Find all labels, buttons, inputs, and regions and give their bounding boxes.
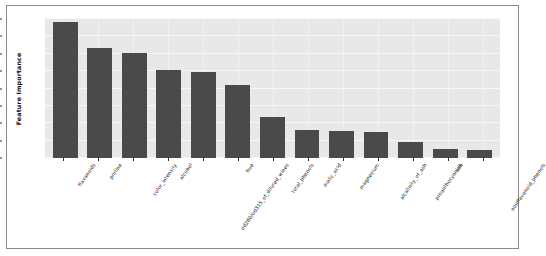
bar — [260, 117, 285, 158]
x-tick-mark — [63, 158, 64, 161]
bar — [53, 22, 78, 158]
x-tick-label: od280/od315_of_diluted_wines — [239, 162, 290, 231]
x-tick-label: malic_acid — [321, 162, 342, 188]
x-tick-label: magnesium — [357, 162, 379, 190]
x-tick-mark — [133, 158, 134, 161]
bar-slot — [393, 19, 428, 158]
x-tick-label: proline — [107, 162, 122, 180]
x-tick-label: total_phenols — [289, 162, 314, 194]
y-tick-mark — [0, 123, 2, 124]
x-tick-label: alcalinity_of_ash — [398, 162, 428, 201]
x-tick-label: flavanoids — [76, 162, 96, 187]
bar — [156, 70, 181, 158]
x-tick-label: alcohol — [177, 162, 193, 181]
x-tick-mark — [483, 158, 484, 161]
bar — [191, 72, 216, 158]
x-tick-label: color_intensity — [151, 162, 178, 197]
y-tick-mark — [0, 36, 2, 37]
bar-slot — [255, 19, 290, 158]
y-tick-mark — [0, 105, 2, 106]
y-tick-mark — [0, 140, 2, 141]
bar — [87, 48, 112, 158]
bar — [398, 142, 423, 158]
y-axis-label: Feature Importance — [15, 53, 22, 126]
bar-slot — [152, 19, 187, 158]
bar — [295, 130, 320, 158]
x-tick-mark — [238, 158, 239, 161]
x-tick-mark — [413, 158, 414, 161]
bar-slot — [186, 19, 221, 158]
y-tick-mark — [0, 71, 2, 72]
x-tick-mark — [308, 158, 309, 161]
x-tick-mark — [273, 158, 274, 161]
x-tick-mark — [378, 158, 379, 161]
bar-slot — [359, 19, 394, 158]
y-tick-mark — [0, 53, 2, 54]
bar — [225, 85, 250, 158]
bar-slot — [462, 19, 497, 158]
x-tick-label: hue — [244, 162, 254, 173]
bar — [364, 132, 389, 158]
bar-slot — [324, 19, 359, 158]
x-tick-mark — [343, 158, 344, 161]
bar-slot — [221, 19, 256, 158]
bar — [433, 149, 458, 158]
x-tick-label: nonflavanoid_phenols — [509, 162, 546, 212]
bar — [329, 131, 354, 158]
y-tick-mark — [0, 158, 2, 159]
plot-area — [45, 19, 500, 158]
bar-slot — [83, 19, 118, 158]
bar-slot — [48, 19, 83, 158]
y-tick-mark — [0, 19, 2, 20]
figure-frame: Feature Importance 0.0000.0250.0500.0750… — [6, 5, 519, 249]
x-tick-mark — [168, 158, 169, 161]
x-tick-mark — [203, 158, 204, 161]
bar-slot — [428, 19, 463, 158]
x-tick-mark — [98, 158, 99, 161]
bar — [467, 150, 492, 158]
bar-series — [45, 19, 500, 158]
y-tick-mark — [0, 88, 2, 89]
x-tick-mark — [448, 158, 449, 161]
bar-slot — [117, 19, 152, 158]
bar-slot — [290, 19, 325, 158]
bar — [122, 53, 147, 158]
